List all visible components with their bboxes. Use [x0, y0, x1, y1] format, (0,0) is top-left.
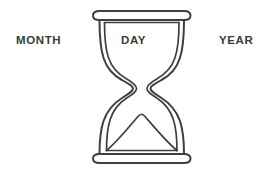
hourglass-bottom-cap [93, 154, 191, 163]
label-day: DAY [121, 35, 146, 47]
hourglass-sand-mound [107, 114, 178, 150]
hourglass-icon [0, 0, 274, 174]
label-month: MONTH [16, 35, 61, 47]
diagram-canvas: MONTH DAY YEAR [0, 0, 274, 174]
label-year: YEAR [219, 35, 253, 47]
hourglass-top-cap [93, 11, 191, 20]
